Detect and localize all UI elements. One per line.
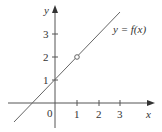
x-tick-label-1: 1	[74, 108, 80, 120]
origin-label: 0	[47, 107, 53, 119]
function-label: y = f(x)	[112, 23, 146, 36]
y-tick-label-2: 2	[43, 51, 49, 63]
y-tick-label-1: 1	[43, 74, 49, 86]
y-tick-label-3: 3	[43, 28, 49, 40]
x-axis-label: x	[145, 108, 151, 120]
function-graph: 0 1 2 3 x 1 2 3 y y = f(x)	[0, 0, 162, 132]
x-axis-arrow-icon	[147, 100, 155, 106]
y-axis-arrow-icon	[52, 5, 58, 13]
x-tick-label-3: 3	[117, 108, 123, 120]
x-tick-label-2: 2	[96, 108, 102, 120]
open-circle-point	[75, 55, 80, 60]
y-axis-label: y	[43, 4, 49, 16]
function-line	[14, 12, 120, 122]
